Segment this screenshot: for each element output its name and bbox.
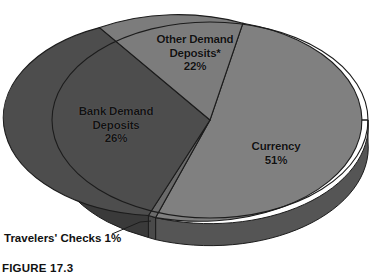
- pie-label-bank-demand-deposits: Bank Demand Deposits 26%: [62, 105, 170, 146]
- pie-value-other-demand-deposits: 22%: [141, 60, 249, 74]
- pie-value-currency: 51%: [230, 154, 322, 168]
- pie-label-travelers-checks: Travelers' Checks 1%: [4, 232, 121, 244]
- pie-label-currency-text: Currency: [252, 140, 301, 152]
- pie-label-currency: Currency 51%: [230, 140, 322, 167]
- side-wall-travelers-checks: [148, 216, 155, 240]
- figure-pie-chart: Other Demand Deposits* 22% Bank Demand D…: [0, 0, 384, 280]
- pie-value-bank-demand-deposits: 26%: [62, 132, 170, 146]
- pie-label-other-demand-deposits-line2: Deposits*: [169, 47, 220, 59]
- pie-label-other-demand-deposits-line1: Other Demand: [157, 33, 234, 45]
- pie-label-other-demand-deposits: Other Demand Deposits* 22%: [141, 33, 249, 74]
- figure-caption: FIGURE 17.3: [2, 262, 73, 274]
- pie-label-bank-demand-deposits-line2: Deposits: [93, 119, 140, 131]
- pie-label-bank-demand-deposits-line1: Bank Demand: [79, 105, 154, 117]
